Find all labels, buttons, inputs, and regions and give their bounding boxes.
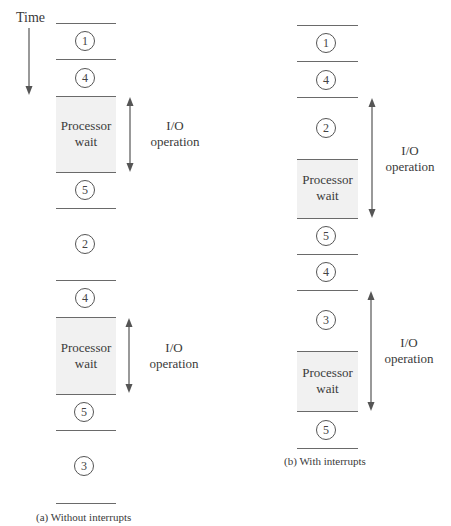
timeline-divider	[56, 59, 116, 60]
step-circle: 4	[75, 288, 95, 308]
step-circle: 5	[75, 180, 95, 200]
step-circle: 4	[316, 262, 336, 282]
step-circle: 1	[316, 33, 336, 53]
time-label: Time	[16, 10, 45, 26]
io-duration-arrow-icon	[124, 318, 134, 394]
time-arrow-icon	[24, 28, 34, 96]
step-circle: 1	[75, 31, 95, 51]
timeline-divider	[56, 394, 116, 395]
timeline-divider	[297, 25, 358, 26]
timeline-divider	[297, 159, 358, 160]
timeline-divider	[56, 317, 116, 318]
processor-wait-label: Processor wait	[56, 118, 116, 150]
timeline-divider	[56, 172, 116, 173]
timeline-divider	[297, 290, 358, 291]
io-duration-arrow-icon	[367, 98, 377, 219]
timeline-divider	[297, 448, 358, 449]
timeline-divider	[297, 61, 358, 62]
processor-wait-label: Processor wait	[297, 172, 358, 204]
timeline-divider	[56, 430, 116, 431]
io-operation-label: I/O operation	[143, 118, 207, 150]
timeline-divider	[56, 23, 116, 24]
step-circle: 4	[316, 70, 336, 90]
step-circle: 5	[316, 420, 336, 440]
timeline-divider	[56, 96, 116, 97]
step-circle: 3	[74, 456, 94, 476]
timeline-divider	[56, 280, 116, 281]
io-operation-label: I/O operation	[142, 340, 206, 372]
timeline-divider	[56, 503, 116, 504]
step-circle: 5	[74, 402, 94, 422]
timeline-divider	[297, 254, 358, 255]
timeline-divider	[297, 97, 358, 98]
step-circle: 5	[316, 226, 336, 246]
io-operation-label: I/O operation	[380, 143, 440, 175]
io-operation-label: I/O operation	[379, 335, 439, 367]
panel-b-caption: (b) With interrupts	[284, 455, 366, 467]
step-circle: 2	[316, 118, 336, 138]
processor-wait-label: Processor wait	[56, 340, 116, 372]
timeline-divider	[297, 218, 358, 219]
step-circle: 2	[75, 234, 95, 254]
timeline-divider	[297, 351, 358, 352]
io-duration-arrow-icon	[366, 291, 376, 412]
io-duration-arrow-icon	[125, 97, 135, 173]
processor-wait-label: Processor wait	[297, 365, 358, 397]
timeline-divider	[297, 411, 358, 412]
step-circle: 4	[75, 68, 95, 88]
timeline-divider	[56, 208, 116, 209]
step-circle: 3	[316, 310, 336, 330]
panel-a-caption: (a) Without interrupts	[36, 511, 131, 523]
